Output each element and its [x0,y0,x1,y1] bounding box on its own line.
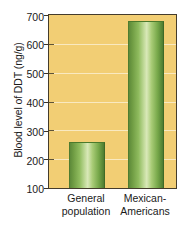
y-axis-tick-labels: 700 600 500 400 300 200 100 [16,0,44,233]
y-tick-label-700: 700 [16,12,44,23]
x-tick-label-line-1: Mexican- [103,192,187,205]
bar-mexican-americans [128,21,164,188]
bar-general-population [69,142,105,188]
chart-figure: Blood level of DDT (ng/g) 700 600 500 40… [0,0,191,233]
y-tick-label-300: 300 [16,127,44,138]
y-tick-label-600: 600 [16,40,44,51]
y-tick-label-500: 500 [16,69,44,80]
x-tick-label-line-2: Americans [103,205,187,218]
y-tick-label-400: 400 [16,98,44,109]
plot-area [48,14,177,189]
bar-series [49,15,176,188]
x-tick-label-mexican-americans: Mexican- Americans [103,192,187,217]
y-tick-label-100: 100 [16,184,44,195]
y-tick-label-200: 200 [16,156,44,167]
x-axis-tick-labels: General population Mexican- Americans [48,192,177,228]
